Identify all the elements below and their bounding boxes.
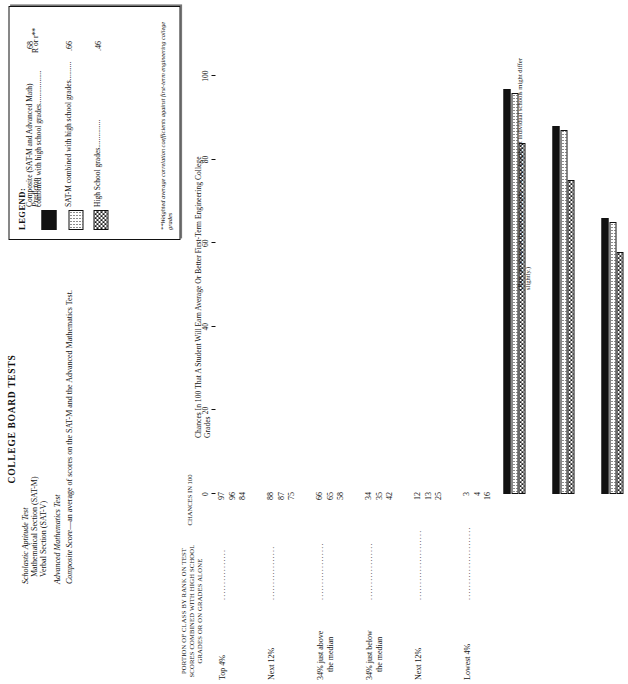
value-cell: 66 [314, 492, 325, 518]
value-cell: 25 [433, 492, 444, 518]
value-cell: 4 [472, 492, 483, 518]
legend-row-composite: Composite (SAT-M and Advanced Math) comb… [25, 7, 59, 239]
legend-label-composite: Composite (SAT-M and Advanced Math) comb… [25, 59, 43, 207]
axis-tick-label: 20 [200, 407, 506, 415]
value-cell: 58 [335, 492, 346, 518]
category-table-header-left: PORTION OF CLASS BY RANK ON TEST SCORES … [179, 536, 202, 684]
rotated-page-wrapper: COLLEGE BOARD TESTS Scholastic Aptitude … [0, 0, 299, 590]
composite-text: —an average of scores on the SAT-M and t… [64, 290, 73, 530]
bar [567, 181, 574, 495]
value-cell: 87 [276, 492, 287, 518]
legend-rows: Composite (SAT-M and Advanced Math) comb… [25, 7, 118, 239]
value-cell-stack: 121325 [412, 492, 444, 518]
page-title: COLLEGE BOARD TESTS [6, 254, 16, 584]
value-cell: 65 [325, 492, 336, 518]
value-cell: 96 [227, 492, 238, 518]
legend-swatch-checkered [93, 210, 108, 230]
sat-math-line: Mathematical Section (SAT-M) [29, 254, 38, 577]
legend-value-satm: .66 [64, 41, 73, 51]
bar [601, 218, 608, 494]
bar-chart: 020406080100 [215, 76, 511, 494]
value-cell: 3 [461, 492, 472, 518]
value-cell-stack: 666558 [314, 492, 346, 518]
leader-dots: .................. [315, 542, 324, 600]
legend-dots-satm: .......... [63, 62, 72, 81]
bar [552, 126, 559, 494]
leader-dots: ...................... [413, 530, 422, 600]
value-cell-stack: 888775 [265, 492, 297, 518]
category-table-header-right: CHANCES IN 100 [185, 474, 193, 526]
legend-row-satm: SAT-M combined with high school grades..… [64, 7, 88, 239]
test-name-advmath: Advanced Mathematics Test [52, 254, 61, 584]
value-cell: 13 [423, 492, 434, 518]
leader-dots: ................. [266, 546, 275, 600]
legend-dots-composite: .................. [33, 70, 42, 104]
value-cell-stack: 343542 [363, 492, 395, 518]
header-block: COLLEGE BOARD TESTS Scholastic Aptitude … [6, 254, 73, 584]
bar [503, 89, 510, 494]
leader-dots: ....................... [462, 526, 471, 600]
value-cell: 16 [482, 492, 493, 518]
legend-label-satm: SAT-M combined with high school grades..… [64, 59, 73, 207]
value-cell-stack: 979684 [216, 492, 248, 518]
chart-footnote: (Bars are shown at theoretical lengths—a… [515, 40, 531, 290]
legend-value-composite: .68 [25, 41, 34, 51]
composite-definition: Composite Score—an average of scores on … [64, 254, 73, 584]
axis-tick-label: 60 [200, 239, 506, 247]
test-name-sat: Scholastic Aptitude Test [20, 254, 29, 584]
bar [609, 222, 616, 494]
leader-dots: ................ [217, 549, 226, 600]
y-axis-title: Chances In 100 That A Student Will Earn … [193, 138, 211, 438]
legend-value-hsgrades: .46 [93, 41, 102, 51]
figure-root: COLLEGE BOARD TESTS Scholastic Aptitude … [0, 0, 299, 590]
legend-swatch-dotted [68, 210, 83, 230]
value-cell: 75 [286, 492, 297, 518]
legend-dots-hsgrades: ............... [92, 120, 101, 148]
value-cell: 35 [374, 492, 385, 518]
axis-tick-label: 80 [200, 156, 506, 164]
leader-dots: .................. [364, 542, 373, 600]
legend-label-hsgrades: High School grades............... [93, 59, 102, 207]
value-cell-stack: 3416 [461, 492, 493, 518]
value-cell: 97 [216, 492, 227, 518]
value-cell: 34 [363, 492, 374, 518]
legend-footnote: **Weighted average correlation coefficie… [158, 14, 173, 230]
chart-axis: 020406080100 [215, 76, 511, 494]
composite-label: Composite Score [64, 530, 73, 584]
sat-verbal-line: Verbal Section (SAT-V) [38, 254, 47, 577]
legend-swatch-solid-black [41, 210, 56, 230]
value-cell: 42 [384, 492, 395, 518]
bar [560, 130, 567, 494]
axis-tick-label: 40 [200, 323, 506, 331]
legend-box: LEGEND: Predictor R or r** Composite (SA… [8, 6, 180, 240]
value-cell: 84 [237, 492, 248, 518]
value-cell: 88 [265, 492, 276, 518]
bar [616, 252, 623, 494]
axis-tick-label: 100 [200, 70, 506, 81]
legend-row-hsgrades: High School grades............... .46 [93, 7, 113, 239]
value-cell: 12 [412, 492, 423, 518]
